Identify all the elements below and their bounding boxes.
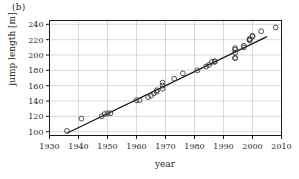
- svg-text:100: 100: [28, 128, 43, 137]
- svg-text:1960: 1960: [126, 142, 146, 151]
- svg-text:2010: 2010: [271, 142, 291, 151]
- svg-text:1970: 1970: [155, 142, 175, 151]
- svg-text:200: 200: [28, 51, 43, 60]
- svg-text:1940: 1940: [68, 142, 88, 151]
- axis-ticks: [46, 24, 282, 139]
- data-points: [65, 25, 279, 133]
- svg-text:220: 220: [28, 36, 43, 45]
- svg-text:1980: 1980: [184, 142, 204, 151]
- svg-text:1990: 1990: [213, 142, 233, 151]
- svg-text:1930: 1930: [39, 142, 59, 151]
- svg-text:160: 160: [28, 82, 43, 91]
- svg-text:140: 140: [28, 97, 43, 106]
- x-tick-labels: 193019401950196019701980199020002010: [39, 142, 291, 151]
- svg-text:2000: 2000: [242, 142, 262, 151]
- gridlines: [50, 21, 282, 136]
- scatter-plot: 193019401950196019701980199020002010 100…: [0, 0, 299, 179]
- svg-text:1950: 1950: [97, 142, 117, 151]
- figure-panel: (b) jump length [m] year 193019401950196…: [0, 0, 299, 179]
- svg-text:120: 120: [28, 112, 43, 121]
- svg-text:180: 180: [28, 66, 43, 75]
- svg-text:240: 240: [28, 20, 43, 29]
- y-tick-labels: 100120140160180200220240: [28, 20, 43, 136]
